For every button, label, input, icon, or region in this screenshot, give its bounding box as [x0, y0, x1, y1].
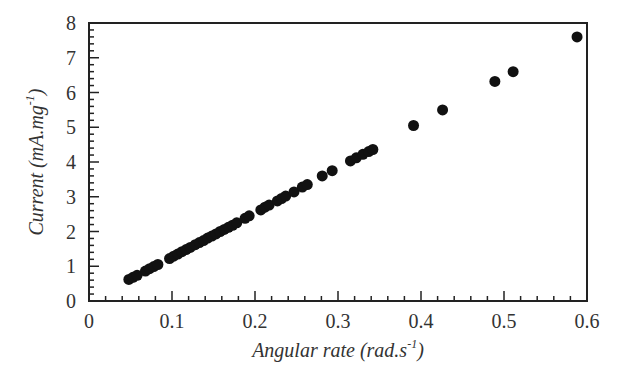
x-tick-label: 0.1: [160, 310, 185, 332]
x-tick-label: 0.3: [326, 310, 351, 332]
data-point: [302, 179, 313, 190]
scatter-chart: 00.10.20.30.40.50.6 012345678 Angular ra…: [0, 0, 617, 378]
y-tick-label: 1: [66, 255, 76, 277]
x-tick-label: 0.4: [409, 310, 434, 332]
data-points: [123, 31, 582, 285]
y-tick-label: 7: [66, 47, 76, 69]
plot-frame: [89, 23, 587, 301]
data-point: [408, 120, 419, 131]
data-point: [367, 144, 378, 155]
data-point: [244, 210, 255, 221]
y-tick-labels: 012345678: [66, 12, 76, 312]
y-tick-label: 6: [66, 82, 76, 104]
data-point: [572, 31, 583, 42]
y-tick-label: 5: [66, 116, 76, 138]
data-point: [437, 104, 448, 115]
x-tick-label: 0.5: [492, 310, 517, 332]
y-tick-label: 2: [66, 221, 76, 243]
data-point: [317, 170, 328, 181]
x-tick-label: 0.6: [575, 310, 600, 332]
y-tick-label: 4: [66, 151, 76, 173]
y-tick-label: 0: [66, 290, 76, 312]
x-tick-label: 0.2: [243, 310, 268, 332]
axis-ticks: [89, 23, 587, 301]
data-point: [489, 76, 500, 87]
data-point: [152, 259, 163, 270]
y-tick-label: 3: [66, 186, 76, 208]
data-point: [508, 66, 519, 77]
x-tick-labels: 00.10.20.30.40.50.6: [84, 310, 600, 332]
y-axis-label: Current (mA.mg-1): [23, 88, 48, 235]
x-axis-label: Angular rate (rad.s-1): [250, 337, 424, 362]
data-point: [327, 165, 338, 176]
y-tick-label: 8: [66, 12, 76, 34]
x-tick-label: 0: [84, 310, 94, 332]
